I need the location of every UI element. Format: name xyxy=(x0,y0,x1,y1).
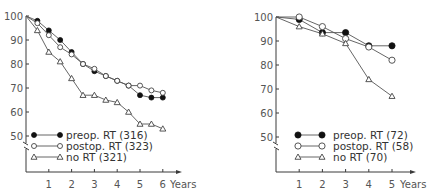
data-point-open-triangle xyxy=(46,49,52,54)
data-point-open-triangle xyxy=(296,24,302,29)
y-tick-label: 60 xyxy=(10,107,23,118)
data-point-open-circle xyxy=(69,52,74,57)
x-tick-label: 3 xyxy=(342,179,348,190)
legend-marker-filled-circle xyxy=(295,132,301,138)
data-point-open-triangle xyxy=(69,75,75,80)
y-tick-label: 100 xyxy=(254,12,273,23)
axis-break-icon xyxy=(273,142,279,150)
legend-marker-filled-circle xyxy=(58,133,63,138)
y-tick-label: 50 xyxy=(10,131,23,142)
data-point-filled-circle xyxy=(149,95,154,100)
data-point-open-circle xyxy=(319,24,325,30)
y-tick-label: 50 xyxy=(260,132,273,143)
legend-marker-open-circle xyxy=(319,143,325,149)
data-point-open-triangle xyxy=(160,126,166,131)
x-axis-label: Years xyxy=(399,179,426,190)
x-tick-label: 5 xyxy=(389,179,395,190)
data-point-filled-circle xyxy=(58,38,63,43)
x-tick-label: 3 xyxy=(91,179,97,190)
series-line xyxy=(276,17,392,46)
data-point-open-circle xyxy=(103,74,108,79)
data-point-open-circle xyxy=(389,57,395,63)
data-point-open-circle xyxy=(115,78,120,83)
axes: 5060708090100123456Years xyxy=(4,11,196,191)
x-tick-label: 2 xyxy=(319,179,325,190)
data-point-filled-circle xyxy=(389,43,395,49)
x-axis-label: Years xyxy=(169,179,196,190)
legend-item: no RT (70) xyxy=(295,151,387,163)
y-tick-label: 100 xyxy=(4,11,23,22)
legend-marker-open-circle xyxy=(295,143,301,149)
y-tick-label: 60 xyxy=(260,108,273,119)
series-line xyxy=(276,17,392,96)
data-point-open-circle xyxy=(366,44,372,50)
x-tick-label: 2 xyxy=(68,179,74,190)
data-point-open-circle xyxy=(92,66,97,71)
legend-label: no RT (70) xyxy=(333,151,387,163)
data-point-open-triangle xyxy=(366,76,372,81)
axes: 506070809010012345Years xyxy=(254,12,426,191)
legend-item: no RT (321) xyxy=(31,151,127,163)
y-tick-label: 90 xyxy=(10,35,23,46)
y-tick-label: 70 xyxy=(260,84,273,95)
y-tick-label: 70 xyxy=(10,83,23,94)
data-point-filled-circle xyxy=(46,28,51,33)
legend-marker-open-circle xyxy=(58,144,63,149)
data-point-open-circle xyxy=(160,90,165,95)
series-open-circle xyxy=(26,16,165,95)
left-survival-chart: 5060708090100123456Yearspreop. RT (316)p… xyxy=(4,11,196,191)
x-tick-label: 4 xyxy=(114,179,120,190)
legend-marker-filled-circle xyxy=(32,133,37,138)
x-tick-label: 4 xyxy=(366,179,372,190)
series-filled-circle xyxy=(276,16,395,49)
data-point-open-circle xyxy=(296,14,302,20)
legend-marker-open-circle xyxy=(32,144,37,149)
legend-marker-filled-circle xyxy=(319,132,325,138)
x-tick-label: 1 xyxy=(46,179,52,190)
x-tick-label: 1 xyxy=(296,179,302,190)
data-point-open-circle xyxy=(149,88,154,93)
data-point-open-circle xyxy=(35,21,40,26)
y-tick-label: 90 xyxy=(260,36,273,47)
data-point-filled-circle xyxy=(160,95,165,100)
data-point-open-circle xyxy=(46,33,51,38)
data-point-open-circle xyxy=(81,62,86,67)
data-point-open-triangle xyxy=(389,93,395,98)
x-tick-label: 6 xyxy=(160,179,166,190)
data-point-filled-circle xyxy=(343,29,349,35)
y-tick-label: 80 xyxy=(260,60,273,71)
y-tick-label: 80 xyxy=(10,59,23,70)
axis-break-icon xyxy=(23,142,29,150)
series-open-circle xyxy=(276,14,395,63)
chart-canvas: 5060708090100123456Yearspreop. RT (316)p… xyxy=(0,0,434,194)
x-tick-label: 5 xyxy=(137,179,143,190)
data-point-open-triangle xyxy=(103,97,109,102)
series-open-triangle xyxy=(276,17,395,98)
data-point-open-circle xyxy=(138,83,143,88)
x-axis-arrow-icon xyxy=(410,170,416,174)
right-survival-chart: 506070809010012345Yearspreop. RT (72)pos… xyxy=(254,12,426,191)
survival-charts-figure: 5060708090100123456Yearspreop. RT (316)p… xyxy=(0,0,434,194)
x-axis-arrow-icon xyxy=(176,170,182,174)
legend-label: no RT (321) xyxy=(66,151,127,163)
data-point-filled-circle xyxy=(138,93,143,98)
data-point-open-circle xyxy=(126,83,131,88)
data-point-open-circle xyxy=(58,45,63,50)
